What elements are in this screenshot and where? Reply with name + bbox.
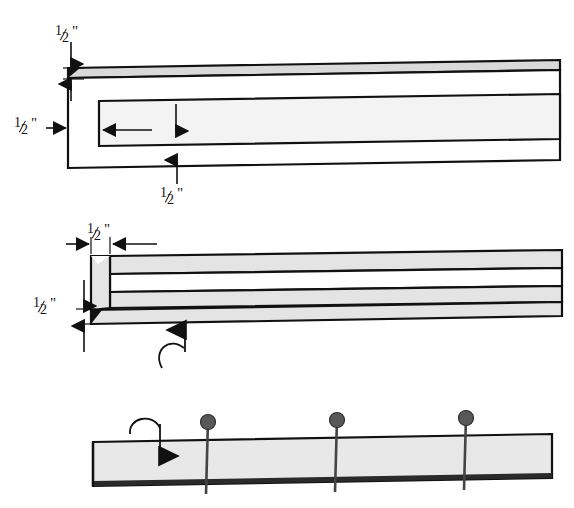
inch-mark: " (72, 23, 78, 39)
fold-arrow-curve-bottom (130, 419, 160, 434)
fraction-denominator: 2 (40, 303, 47, 317)
nail-2-head (330, 413, 345, 428)
fold-arrow-curve-middle (159, 344, 184, 368)
fraction-one-half: 1 2 (55, 25, 72, 45)
top-plan-view (46, 42, 560, 184)
fraction-one-half: 1 2 (160, 187, 177, 207)
dim-label-left-width: 1 2 " (14, 116, 37, 137)
middle-end-block (91, 256, 110, 310)
bottom-assembly-view (93, 411, 552, 495)
fraction-denominator: 2 (94, 229, 101, 243)
dim-label-top-thickness: 1 2 " (55, 24, 78, 45)
fraction-one-half: 1 2 (87, 223, 104, 243)
dim-label-bottom-depth: 1 2 " (160, 186, 183, 207)
dim-label-endblock-width: 1 2 " (87, 222, 110, 243)
dim-label-endblock-height: 1 2 " (33, 296, 56, 317)
technical-diagram (0, 0, 574, 508)
figure-page: 1 2 " 1 2 " 1 2 " 1 2 " 1 2 " (0, 0, 574, 508)
inch-mark: " (177, 185, 183, 201)
nail-3-head (459, 411, 474, 426)
inch-mark: " (104, 221, 110, 237)
fraction-denominator: 2 (62, 31, 69, 45)
fraction-denominator: 2 (167, 193, 174, 207)
top-view-inner-rabbet (99, 94, 560, 146)
fraction-denominator: 2 (21, 123, 28, 137)
fraction-one-half: 1 2 (33, 297, 50, 317)
middle-edge-view (66, 237, 562, 368)
nail-1-head (201, 415, 216, 430)
inch-mark: " (31, 115, 37, 131)
fraction-one-half: 1 2 (14, 117, 31, 137)
inch-mark: " (50, 295, 56, 311)
